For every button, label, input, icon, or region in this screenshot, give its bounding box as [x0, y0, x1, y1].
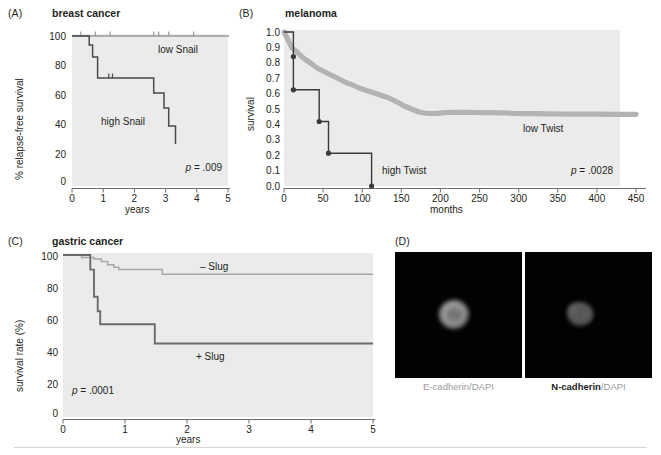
panel-a-label-low-snail: low Snail: [158, 44, 198, 55]
panel-a-x-ticks: [72, 189, 228, 193]
panel-a: (A) breast cancer % relapse-free surviva…: [0, 0, 250, 220]
svg-text:3: 3: [163, 193, 169, 204]
panel-c: (C) gastric cancer survival rate (%) yea…: [0, 228, 390, 455]
n-cadherin-cell-lobe-right: [578, 308, 592, 322]
panel-b-plot-background: [284, 30, 620, 186]
panel-c-ytick-labels: 100 80 60 40 20 0: [41, 251, 58, 419]
svg-text:4: 4: [308, 424, 314, 435]
svg-text:2: 2: [184, 424, 190, 435]
e-cadherin-cell-core: [447, 308, 462, 321]
panel-a-ytick-20: 20: [55, 149, 67, 160]
svg-text:1.0: 1.0: [266, 27, 280, 38]
caption-n-cadherin-primary: N-cadherin: [551, 381, 601, 392]
svg-text:400: 400: [589, 193, 606, 204]
svg-text:50: 50: [318, 193, 330, 204]
panel-b: (B) melanoma survival months 1.0 0.9 0.8…: [235, 0, 661, 220]
svg-text:3: 3: [246, 424, 252, 435]
caption-n-cadherin-secondary: /DAPI: [601, 381, 626, 392]
panel-c-pvalue: p = .0001: [71, 385, 114, 396]
svg-text:5: 5: [225, 193, 231, 204]
svg-text:450: 450: [628, 193, 645, 204]
caption-e-cadherin: E-cadherin/DAPI: [395, 381, 522, 392]
svg-text:0: 0: [281, 193, 287, 204]
panel-c-x-ticks: [63, 420, 373, 424]
svg-text:0: 0: [60, 424, 66, 435]
caption-n-cadherin: N-cadherin/DAPI: [525, 381, 652, 392]
svg-text:0: 0: [52, 408, 58, 419]
svg-text:0.6: 0.6: [266, 88, 280, 99]
svg-text:5: 5: [370, 424, 376, 435]
panel-c-label-minus-slug: – Slug: [200, 261, 228, 272]
panel-c-plot: 100 80 60 40 20 0 0 1 2 3: [0, 228, 390, 455]
caption-e-cadherin-primary: E-cadherin: [423, 381, 469, 392]
svg-text:0.5: 0.5: [266, 104, 280, 115]
svg-text:300: 300: [510, 193, 527, 204]
panel-d-letter: (D): [395, 235, 410, 247]
panel-a-ytick-40: 40: [55, 119, 67, 130]
svg-text:0.8: 0.8: [266, 57, 280, 68]
panel-b-label-high-twist: high Twist: [382, 165, 427, 176]
panel-b-pvalue: p = .0028: [570, 165, 613, 176]
svg-text:200: 200: [432, 193, 449, 204]
svg-text:4: 4: [194, 193, 200, 204]
panel-b-xtick-labels: 0 50 100 150 200 250 300 350 400 450: [281, 193, 645, 204]
figure-bottom-rule: [14, 447, 647, 448]
svg-text:1: 1: [100, 193, 106, 204]
svg-text:0.1: 0.1: [266, 165, 280, 176]
panel-a-plot: 100 80 60 40 20 0 0 1 2 3 4 5: [0, 0, 250, 220]
panel-a-label-high-snail: high Snail: [101, 116, 145, 127]
micrograph-e-cadherin[interactable]: [395, 252, 522, 378]
svg-text:100: 100: [41, 251, 58, 262]
panel-b-curve-low-twist-tail: [430, 114, 636, 115]
svg-text:0.7: 0.7: [266, 73, 280, 84]
panel-a-xtick-labels: 0 1 2 3 4 5: [69, 193, 231, 204]
panel-a-ytick-0: 0: [60, 176, 66, 187]
svg-text:2: 2: [132, 193, 138, 204]
svg-text:250: 250: [471, 193, 488, 204]
figure-root: (A) breast cancer % relapse-free surviva…: [0, 0, 661, 455]
svg-text:0.4: 0.4: [266, 119, 280, 130]
panel-a-ytick-60: 60: [55, 90, 67, 101]
panel-c-label-plus-slug: + Slug: [196, 351, 225, 362]
panel-b-x-ticks: [284, 189, 636, 193]
svg-text:150: 150: [393, 193, 410, 204]
svg-text:0: 0: [69, 193, 75, 204]
panel-a-ytick-100: 100: [49, 31, 66, 42]
svg-text:0.2: 0.2: [266, 150, 280, 161]
svg-text:0.9: 0.9: [266, 42, 280, 53]
panel-c-xtick-labels: 0 1 2 3 4 5: [60, 424, 376, 435]
panel-a-ytick-80: 80: [55, 60, 67, 71]
svg-text:350: 350: [549, 193, 566, 204]
panel-b-label-low-twist: low Twist: [523, 123, 564, 134]
svg-text:0.0: 0.0: [266, 181, 280, 192]
panel-a-pvalue: p = .009: [185, 162, 223, 173]
svg-text:0.3: 0.3: [266, 134, 280, 145]
panel-b-plot: 1.0 0.9 0.8 0.7 0.6 0.5 0.4 0.3 0.2 0.1 …: [235, 0, 661, 220]
svg-text:1: 1: [122, 424, 128, 435]
micrograph-n-cadherin[interactable]: [525, 252, 652, 378]
svg-text:40: 40: [47, 347, 59, 358]
panel-b-ytick-labels: 1.0 0.9 0.8 0.7 0.6 0.5 0.4 0.3 0.2 0.1 …: [266, 27, 280, 192]
svg-text:20: 20: [47, 379, 59, 390]
panel-d: (D) E-cadherin/DAPI N-cadherin/DAPI: [390, 228, 661, 455]
caption-e-cadherin-secondary: /DAPI: [469, 381, 494, 392]
svg-text:60: 60: [47, 315, 59, 326]
svg-text:100: 100: [354, 193, 371, 204]
svg-text:80: 80: [47, 283, 59, 294]
